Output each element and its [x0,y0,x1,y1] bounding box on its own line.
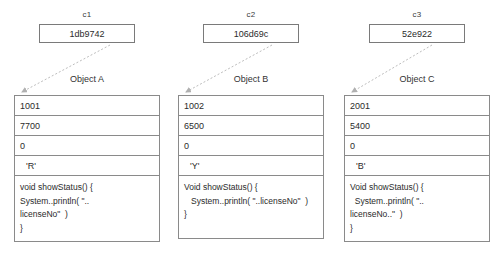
code-line: licenseNo" ) [20,208,155,222]
object-method-code: Void showStatus() { System..println( "..… [179,176,323,238]
object-title-a: Object A [14,74,160,84]
reference-value-c2: 106d69c [234,29,269,39]
arrow-c1-to-object-a [22,45,110,92]
field-value: 5400 [350,121,370,131]
object-field-row: 0 [15,136,159,156]
reference-box-c3[interactable]: 52e922 [369,24,465,43]
code-line: System..println( "..licenseNo" ) [184,195,319,209]
object-field-row: 2001 [345,96,489,116]
field-value: 'R' [26,161,36,171]
reference-label-c3: c3 [344,10,490,19]
field-value: 1001 [20,101,40,111]
arrow-c2-to-object-b [186,45,272,92]
field-value: 0 [184,141,189,151]
object-field-row: 7700 [15,116,159,136]
field-value: 0 [350,141,355,151]
object-title-b: Object B [178,74,324,84]
object-field-row: 'Y' [179,156,323,176]
reference-label-c2: c2 [178,10,324,19]
field-value: 'Y' [190,161,199,171]
object-field-row: 0 [345,136,489,156]
reference-box-c2[interactable]: 106d69c [203,24,299,43]
code-line: } [184,208,319,222]
code-line: } [350,222,485,236]
object-field-row: 6500 [179,116,323,136]
object-method-code: void showStatus() { System..println( "..… [15,176,159,241]
arrow-c3-to-object-c [352,45,432,92]
object-field-row: 1002 [179,96,323,116]
field-value: 7700 [20,121,40,131]
reference-box-c1[interactable]: 1db9742 [39,24,135,43]
object-box-c: 2001 5400 0 'B' Void showStatus() { Syst… [344,95,490,242]
field-value: 1002 [184,101,204,111]
field-value: 'B' [356,161,365,171]
code-line: licenseNo.." ) [350,208,485,222]
field-value: 6500 [184,121,204,131]
object-title-c: Object C [344,74,490,84]
object-field-row: 1001 [15,96,159,116]
object-box-a: 1001 7700 0 'R' void showStatus() { Syst… [14,95,160,242]
code-line: Void showStatus() { [350,181,485,195]
code-line: System..println( ".. [350,195,485,209]
code-line: Void showStatus() { [184,181,319,195]
field-value: 0 [20,141,25,151]
object-field-row: 0 [179,136,323,156]
object-field-row: 'B' [345,156,489,176]
code-line: } [20,222,155,236]
object-box-b: 1002 6500 0 'Y' Void showStatus() { Syst… [178,95,324,239]
field-value: 2001 [350,101,370,111]
code-line: System..println( ".. [20,195,155,209]
object-field-row: 'R' [15,156,159,176]
object-field-row: 5400 [345,116,489,136]
object-method-code: Void showStatus() { System..println( "..… [345,176,489,241]
reference-value-c1: 1db9742 [69,29,104,39]
object-reference-diagram: c1 1db9742 Object A 1001 7700 0 'R' void… [0,0,503,264]
reference-value-c3: 52e922 [402,29,432,39]
code-line: void showStatus() { [20,181,155,195]
reference-label-c1: c1 [14,10,160,19]
